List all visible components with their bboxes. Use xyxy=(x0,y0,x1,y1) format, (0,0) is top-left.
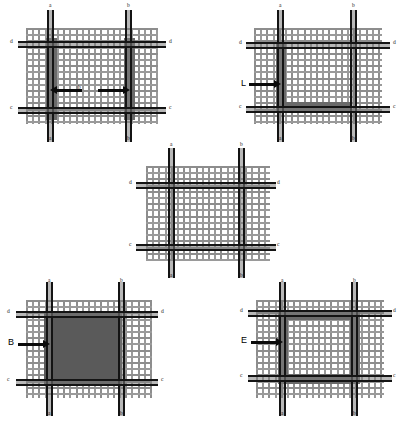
callout-arrow-L xyxy=(249,80,281,89)
label-top-b: b xyxy=(353,278,356,284)
rail-horizontal-c xyxy=(18,107,166,114)
rail-horizontal-c xyxy=(246,106,390,113)
rail-horizontal-d xyxy=(136,182,276,189)
label-bottom-a: a xyxy=(279,136,281,142)
label-top-a: a xyxy=(279,3,281,9)
panel-center: a b a b d d c c xyxy=(124,142,284,282)
callout-label-E: E xyxy=(241,336,247,345)
label-right-d: d xyxy=(393,308,396,314)
rail-vertical-b xyxy=(125,10,132,142)
panel-bottom-right: E a b a b d d c c xyxy=(236,278,400,420)
rail-vertical-b xyxy=(350,10,357,142)
label-bottom-b: b xyxy=(120,411,123,417)
rail-vertical-b xyxy=(351,282,358,416)
label-top-b: b xyxy=(127,3,130,9)
label-left-d: d xyxy=(7,309,10,315)
label-left-d: d xyxy=(239,40,242,46)
panel-top-left: b a b a b d d c c xyxy=(8,2,178,144)
label-top-b: b xyxy=(240,142,243,148)
label-bottom-a: a xyxy=(49,136,51,142)
callout-arrow-B xyxy=(18,340,50,349)
rail-horizontal-c xyxy=(248,375,392,382)
label-left-c: c xyxy=(240,373,242,379)
rail-vertical-b xyxy=(118,282,125,416)
panel-top-right: L a b a b d d c c xyxy=(236,2,400,144)
rail-vertical-a xyxy=(168,148,175,278)
rail-vertical-a xyxy=(279,282,286,416)
label-top-a: a xyxy=(281,278,283,284)
dimension-label: b xyxy=(78,85,81,91)
label-right-c: c xyxy=(277,242,279,248)
label-right-d: d xyxy=(161,309,164,315)
label-left-d: d xyxy=(10,39,13,45)
rail-vertical-a xyxy=(277,10,284,142)
label-top-b: b xyxy=(352,3,355,9)
panel-bottom-left: B a b a b d d c c xyxy=(2,278,178,420)
label-top-b: b xyxy=(120,278,123,284)
label-bottom-a: a xyxy=(48,411,50,417)
label-left-d: d xyxy=(129,180,132,186)
label-bottom-b: b xyxy=(352,136,355,142)
label-right-d: d xyxy=(393,40,396,46)
rail-vertical-a xyxy=(46,282,53,416)
label-top-a: a xyxy=(49,3,51,9)
label-right-d: d xyxy=(277,180,280,186)
label-left-c: c xyxy=(7,377,9,383)
callout-label-L: L xyxy=(241,79,246,88)
rail-vertical-b xyxy=(238,148,245,278)
label-left-c: c xyxy=(10,105,12,111)
rail-horizontal-d xyxy=(248,310,392,317)
label-right-c: c xyxy=(393,104,395,110)
shaded-square-fill xyxy=(44,312,122,384)
callout-arrow-E xyxy=(251,338,283,347)
label-bottom-b: b xyxy=(127,136,130,142)
label-left-d: d xyxy=(240,308,243,314)
label-right-c: c xyxy=(169,105,171,111)
label-top-a: a xyxy=(170,142,172,148)
label-left-c: c xyxy=(129,242,131,248)
label-left-c: c xyxy=(239,104,241,110)
label-right-d: d xyxy=(169,39,172,45)
label-right-c: c xyxy=(161,377,163,383)
label-bottom-b: b xyxy=(353,411,356,417)
rail-horizontal-d xyxy=(16,311,158,318)
rail-horizontal-c xyxy=(16,379,158,386)
label-top-a: a xyxy=(48,278,50,284)
callout-label-B: B xyxy=(8,338,14,347)
rail-horizontal-c xyxy=(136,244,276,251)
rail-horizontal-d xyxy=(18,41,166,48)
rail-vertical-a xyxy=(47,10,54,142)
dimension-arrow-b xyxy=(50,86,130,95)
rail-horizontal-d xyxy=(246,42,390,49)
label-bottom-a: a xyxy=(281,411,283,417)
label-right-c: c xyxy=(393,373,395,379)
